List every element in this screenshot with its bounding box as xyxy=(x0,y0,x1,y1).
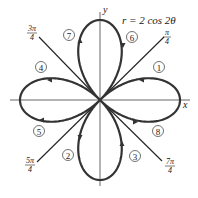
equation-label: r = 2 cos 2θ xyxy=(122,14,176,26)
svg-text:3π: 3π xyxy=(27,24,37,33)
svg-text:7π: 7π xyxy=(166,157,175,166)
marker-2: 2 xyxy=(66,151,71,161)
angle-label-3pi-4: 3π 4 xyxy=(27,24,37,42)
svg-text:4: 4 xyxy=(30,33,34,42)
svg-text:4: 4 xyxy=(28,165,32,174)
marker-3: 3 xyxy=(133,152,138,162)
svg-text:5π: 5π xyxy=(26,156,35,165)
angle-label-pi-4: π 4 xyxy=(163,28,171,46)
marker-6: 6 xyxy=(130,33,135,43)
marker-8: 8 xyxy=(156,127,161,137)
svg-text:4: 4 xyxy=(168,166,172,175)
axes: x y xyxy=(10,4,190,186)
marker-7: 7 xyxy=(67,31,72,41)
marker-5: 5 xyxy=(37,127,42,137)
y-axis-label: y xyxy=(102,4,108,15)
arrow-icon xyxy=(78,38,83,43)
marker-1: 1 xyxy=(157,63,162,73)
order-markers xyxy=(34,30,165,162)
polar-rose-diagram: x y r = 2 cos 2θ π 4 3π 4 5π 4 7 xyxy=(0,0,198,198)
angle-label-5pi-4: 5π 4 xyxy=(25,156,35,174)
svg-text:4: 4 xyxy=(165,37,169,46)
marker-4: 4 xyxy=(39,63,44,73)
svg-text:π: π xyxy=(165,28,170,37)
angle-label-7pi-4: 7π 4 xyxy=(165,157,175,175)
x-axis-label: x xyxy=(182,99,188,110)
